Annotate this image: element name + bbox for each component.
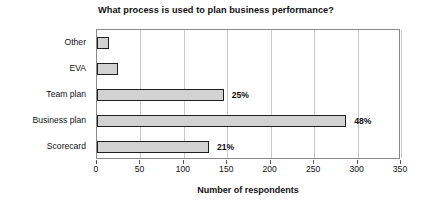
- tick-label: 250: [306, 164, 320, 174]
- bar-row: 25%: [97, 89, 399, 101]
- category-label: EVA: [69, 63, 86, 73]
- category-label: Team plan: [46, 89, 86, 99]
- bar-row: [97, 63, 399, 75]
- tick-label: 0: [94, 164, 99, 174]
- tick-label: 350: [393, 164, 407, 174]
- bar[interactable]: [97, 89, 224, 101]
- bar[interactable]: [97, 141, 209, 153]
- tick-label: 150: [219, 164, 233, 174]
- tick-label: 50: [135, 164, 145, 174]
- tick-label: 300: [349, 164, 363, 174]
- bar-value-label: 25%: [232, 90, 249, 100]
- chart-title: What process is used to plan business pe…: [0, 5, 432, 15]
- category-label: Business plan: [32, 115, 86, 125]
- category-label: Scorecard: [47, 141, 86, 151]
- tick-label: 100: [176, 164, 190, 174]
- bar-row: 21%: [97, 141, 399, 153]
- bar[interactable]: [97, 63, 118, 75]
- bar[interactable]: [97, 37, 109, 49]
- plot-area: 25%48%21%: [96, 29, 400, 159]
- value-axis-ticks: 050100150200250300350: [96, 160, 400, 176]
- bar-chart: What process is used to plan business pe…: [0, 0, 432, 209]
- bar-row: [97, 37, 399, 49]
- bar-value-label: 21%: [217, 142, 234, 152]
- bars-layer: 25%48%21%: [97, 30, 399, 158]
- x-axis-title: Number of respondents: [96, 185, 400, 195]
- bar-row: 48%: [97, 115, 399, 127]
- tick-label: 200: [263, 164, 277, 174]
- category-label: Other: [65, 37, 87, 47]
- bar[interactable]: [97, 115, 346, 127]
- bar-value-label: 48%: [354, 116, 371, 126]
- gridline: [401, 30, 402, 158]
- category-axis-labels: OtherEVATeam planBusiness planScorecard: [0, 29, 92, 159]
